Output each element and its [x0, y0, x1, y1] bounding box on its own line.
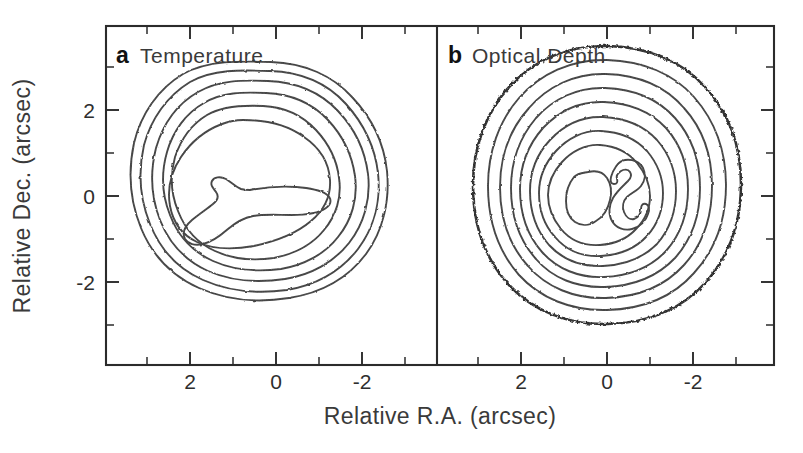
panel-a-letter: a: [116, 42, 129, 68]
x-tick-label-b-2: -2: [684, 370, 703, 393]
x-tick-label-a-0: 2: [184, 370, 196, 393]
panel-b-title: Optical Depth: [472, 44, 606, 67]
panel-a-title: Temperature: [140, 44, 263, 67]
panel-b-heading: b Optical Depth: [448, 42, 606, 68]
y-axis-title: Relative Dec. (arcsec): [9, 78, 35, 313]
x-axis-title: Relative R.A. (arcsec): [324, 403, 556, 429]
y-tick-label-2: -2: [76, 271, 95, 294]
x-tick-label-b-0: 2: [515, 370, 527, 393]
x-tick-label-a-2: -2: [353, 370, 372, 393]
figure-root: a Temperature b Optical Depth 2 0 -2 2 0…: [0, 0, 803, 453]
y-tick-label-0: 2: [83, 99, 95, 122]
y-tick-label-1: 0: [83, 185, 95, 208]
panel-b-letter: b: [448, 42, 462, 68]
x-tick-label-b-1: 0: [601, 370, 613, 393]
x-tick-label-a-1: 0: [270, 370, 282, 393]
contour-figure: a Temperature b Optical Depth 2 0 -2 2 0…: [0, 0, 803, 453]
